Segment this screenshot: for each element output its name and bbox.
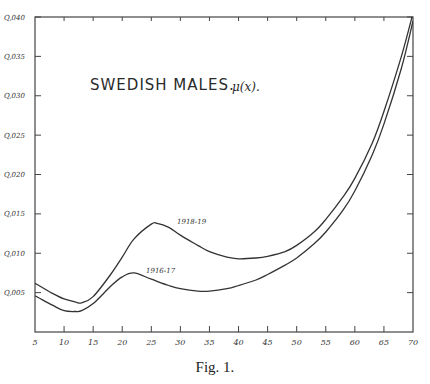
x-tick-label: 30 xyxy=(175,338,185,347)
y-tick-label: Q,040 xyxy=(4,14,26,22)
x-tick-label: 50 xyxy=(292,338,302,347)
chart-title: SWEDISH MALES. xyxy=(90,76,235,94)
x-tick-label: 55 xyxy=(321,338,331,347)
x-tick-label: 10 xyxy=(59,338,69,347)
x-tick-label: 70 xyxy=(408,338,418,347)
x-tick-label: 35 xyxy=(204,338,214,347)
series-line-1916-17 xyxy=(35,21,413,312)
y-tick-label: Q,035 xyxy=(4,53,26,61)
series-line-1918-19 xyxy=(35,13,413,303)
chart-title-symbol: μ(x). xyxy=(232,80,260,94)
x-tick-label: 45 xyxy=(262,338,273,347)
y-tick-label: Q,025 xyxy=(4,132,26,140)
y-tick-label: Q,010 xyxy=(4,250,26,258)
y-tick-label: Q,030 xyxy=(4,92,26,100)
x-tick-label: 25 xyxy=(145,338,156,347)
x-axis-ticks: 510152025303540455055606570 xyxy=(32,17,418,347)
chart-series xyxy=(35,13,413,312)
x-tick-label: 40 xyxy=(232,338,243,347)
y-axis-ticks: Q,005Q,010Q,015Q,020Q,025Q,030Q,035Q,040 xyxy=(4,14,413,298)
y-tick-label: Q,015 xyxy=(4,210,26,218)
x-tick-label: 20 xyxy=(116,338,127,347)
x-tick-label: 60 xyxy=(350,338,360,347)
figure-caption: Fig. 1. xyxy=(0,359,430,376)
x-tick-label: 15 xyxy=(88,338,98,347)
x-tick-label: 65 xyxy=(379,338,389,347)
y-tick-label: Q,005 xyxy=(4,289,26,297)
y-tick-label: Q,020 xyxy=(4,171,26,179)
mortality-chart: Q,005Q,010Q,015Q,020Q,025Q,030Q,035Q,040… xyxy=(0,0,430,384)
series-label-1918-19: 1918-19 xyxy=(177,218,207,226)
series-label-1916-17: 1916-17 xyxy=(146,267,176,275)
x-tick-label: 5 xyxy=(32,338,37,347)
